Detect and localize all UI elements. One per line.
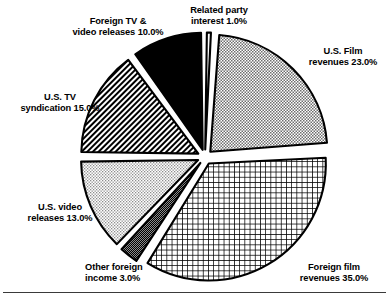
pie-label-line1: Foreign film: [283, 262, 385, 273]
pie-label-foreign-film-revenues: Foreign film revenues 35.0%: [283, 262, 385, 285]
pie-slices: [81, 33, 327, 281]
pie-label-line1: Foreign TV &: [58, 16, 178, 27]
pie-label-line2: interest 1.0%: [173, 16, 265, 27]
pie-label-us-film-revenues: U.S. Film revenues 23.0%: [300, 46, 386, 69]
pie-chart-figure: Related party interest 1.0% Foreign TV &…: [0, 0, 389, 303]
pie-label-line2: syndication 15.0%: [8, 103, 112, 114]
pie-label-line1: U.S. video: [8, 202, 112, 213]
pie-label-line2: revenues 23.0%: [300, 57, 386, 68]
pie-label-line2: releases 13.0%: [8, 213, 112, 224]
pie-label-line1: Related party: [173, 5, 265, 16]
pie-label-line2: revenues 35.0%: [283, 273, 385, 284]
pie-label-us-video-releases: U.S. video releases 13.0%: [8, 202, 112, 225]
pie-label-line1: U.S. Film: [300, 46, 386, 57]
pie-label-line1: Other foreign: [85, 262, 191, 273]
pie-label-line2: income 3.0%: [85, 273, 191, 284]
pie-label-foreign-tv-video-releases: Foreign TV & video releases 10.0%: [58, 16, 178, 39]
pie-label-related-party-interest: Related party interest 1.0%: [173, 5, 265, 28]
pie-label-other-foreign-income: Other foreign income 3.0%: [85, 262, 191, 285]
pie-slice-related-party-interest[interactable]: [205, 33, 211, 150]
pie-label-us-tv-syndication: U.S. TV syndication 15.0%: [8, 92, 112, 115]
pie-label-line2: video releases 10.0%: [58, 27, 178, 38]
pie-label-line1: U.S. TV: [8, 92, 112, 103]
footer-divider: [3, 292, 386, 293]
